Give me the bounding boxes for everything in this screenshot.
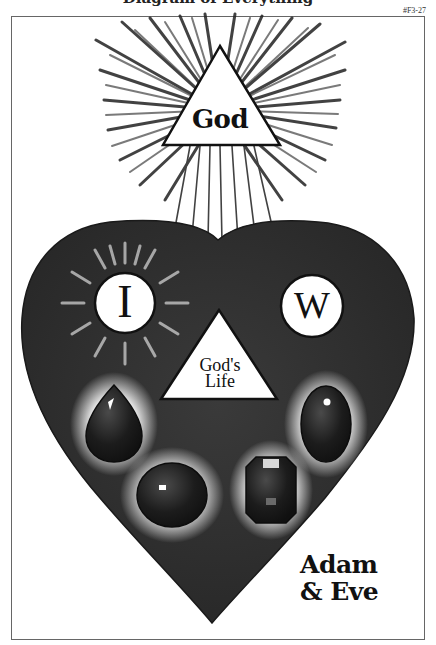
adam-eve-caption: Adam & Eve [300, 551, 424, 605]
god-label: God [170, 104, 270, 134]
caption-line1: Adam [300, 551, 424, 578]
gods-life-label: God's Life [170, 357, 270, 389]
gem-octagon-icon [229, 440, 313, 540]
gods-life-line2: Life [170, 373, 270, 389]
gem-round-icon [120, 447, 224, 543]
w-label: W [281, 282, 343, 328]
i-label: I [95, 276, 155, 328]
caption-line2: & Eve [300, 578, 424, 605]
diagram-artwork [0, 0, 436, 645]
